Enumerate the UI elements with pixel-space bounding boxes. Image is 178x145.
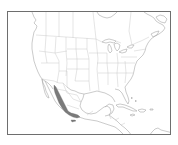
cuba: [116, 104, 137, 111]
great-lakes: [102, 39, 134, 53]
yucatan: [105, 104, 114, 115]
mexico-state-lines: [57, 83, 93, 115]
jamaica: [130, 114, 135, 116]
puerto-rico: [150, 109, 153, 110]
canada-us-border: [36, 35, 149, 45]
south-america: [149, 128, 171, 135]
gulf-of-mexico-coast: [67, 87, 115, 116]
north-america-map: [8, 12, 171, 135]
bahamas: [131, 97, 136, 102]
central-america: [109, 115, 132, 135]
species-range-south: [71, 120, 76, 122]
nova-scotia: [151, 31, 159, 37]
florida: [115, 87, 129, 104]
hudson-bay: [97, 12, 117, 18]
hispaniola: [138, 109, 146, 112]
east-coast: [125, 12, 165, 87]
us-state-lines: [39, 36, 146, 91]
range-map: North America: [7, 11, 171, 135]
gulf-of-california: [45, 81, 53, 89]
species-range: [54, 85, 80, 118]
canada-province-lines: [46, 12, 132, 45]
